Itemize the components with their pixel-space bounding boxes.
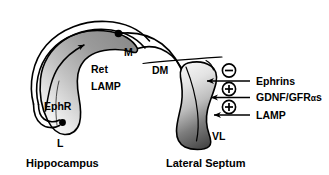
label-ephr: EphR [44, 100, 72, 112]
lateral-neuron-soma [59, 119, 66, 126]
label-lamp-hippocampus: LAMP [91, 80, 121, 92]
label-ret: Ret [91, 63, 108, 75]
cue-label-gdnf-tail: s [316, 91, 322, 103]
cue-row-ephrins: Ephrins [207, 64, 295, 87]
label-dorsomedial: DM [152, 64, 169, 76]
cue-label-lamp: LAMP [256, 109, 286, 121]
caption-hippocampus: Hippocampus [26, 157, 99, 169]
figure-canvas: Ret LAMP EphR M L Hippocampus DM VL Late… [0, 0, 329, 175]
label-ventrolateral: VL [212, 130, 226, 142]
cue-callouts-group: Ephrins GDNF/GFRαs LAMP [207, 64, 322, 121]
label-lateral-pole: L [57, 137, 64, 149]
cue-label-ephrins: Ephrins [256, 75, 295, 87]
caption-lateral-septum: Lateral Septum [166, 157, 246, 169]
diagram-svg: Ret LAMP EphR M L Hippocampus DM VL Late… [0, 0, 329, 175]
hippocampus-group: Ret LAMP EphR M L Hippocampus [26, 21, 150, 169]
cue-row-lamp: LAMP [214, 100, 286, 121]
dorsomedial-boundary-line [143, 57, 222, 64]
cue-label-gdnf-main: GDNF/GFR [256, 91, 311, 103]
label-medial-pole: M [124, 46, 133, 58]
cue-label-gdnf: GDNF/GFRαs [256, 91, 322, 103]
